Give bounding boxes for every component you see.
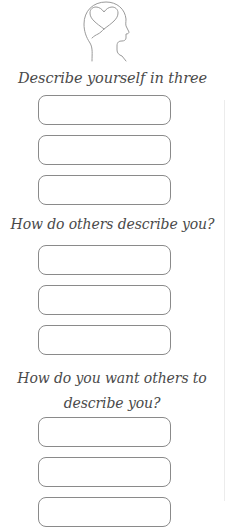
page-edge-divider xyxy=(224,100,225,501)
answer-box-3-1[interactable] xyxy=(38,417,171,447)
prompt-others-describe: How do others describe you? xyxy=(0,212,225,236)
answer-box-3-2[interactable] xyxy=(38,457,171,487)
head-with-heart-icon xyxy=(82,0,130,62)
answer-box-2-3[interactable] xyxy=(38,325,171,355)
answer-box-1-1[interactable] xyxy=(38,95,171,125)
answer-box-1-3[interactable] xyxy=(38,175,171,205)
answer-box-2-1[interactable] xyxy=(38,245,171,275)
answer-box-1-2[interactable] xyxy=(38,135,171,165)
prompt-want-others-describe: How do you want others to describe you? xyxy=(12,366,212,416)
answer-box-3-3[interactable] xyxy=(38,497,171,527)
answer-box-2-2[interactable] xyxy=(38,285,171,315)
